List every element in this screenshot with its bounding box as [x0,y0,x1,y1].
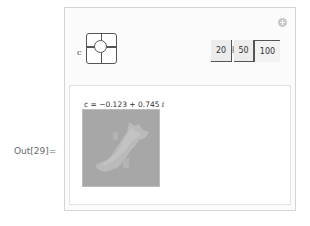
plot-label-text: c = −0.123 + 0.745 [84,100,159,109]
julia-set-plot [82,109,160,187]
add-bookmark-button[interactable] [278,18,287,27]
c-control-label: c [77,48,81,57]
imaginary-unit: i [162,100,164,109]
resolution-setter-20[interactable]: 20 [211,40,232,62]
slider-knob[interactable] [94,40,107,53]
resolution-setter-50[interactable]: 50 [234,40,254,62]
plot-label: c = −0.123 + 0.745 i [84,100,164,109]
output-label: Out[29]= [14,146,56,156]
c-2d-slider[interactable] [86,33,117,64]
resolution-setter-100[interactable]: 100 [254,40,280,62]
julia-set-image [83,110,160,187]
